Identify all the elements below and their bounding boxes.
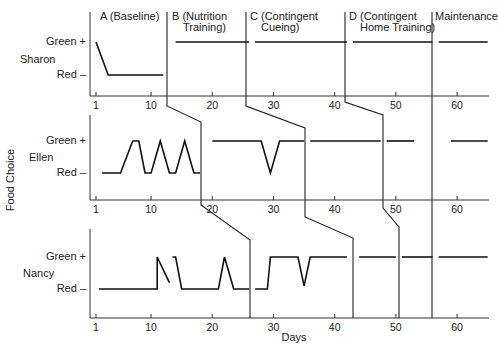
x-tick-label: 30 — [268, 321, 280, 333]
y-level-red-label: Red – — [57, 166, 87, 178]
data-line-nancy — [255, 257, 347, 289]
x-tick-label: 40 — [329, 203, 341, 215]
x-tick-label: 1 — [93, 321, 99, 333]
y-level-green-label: Green + — [46, 134, 86, 146]
y-level-red-label: Red – — [57, 68, 87, 80]
x-tick-label: 10 — [145, 99, 157, 111]
data-line-ellen — [102, 141, 200, 173]
x-tick-label: 20 — [206, 321, 218, 333]
y-level-green-label: Green + — [46, 35, 86, 47]
x-tick-label: 50 — [390, 203, 402, 215]
phase-change-line — [167, 12, 250, 318]
chart-labels: 1102030405060Green +Red –Sharon110203040… — [4, 10, 498, 343]
x-tick-label: 1 — [93, 99, 99, 111]
x-tick-label: 50 — [390, 99, 402, 111]
axes-group — [90, 12, 489, 318]
x-tick-label: 1 — [93, 203, 99, 215]
phase-header-label: Training) — [183, 21, 226, 33]
data-series — [96, 42, 488, 289]
phase-header-label: A (Baseline) — [100, 10, 159, 22]
phase-header-label: Maintenance — [435, 10, 498, 22]
x-tick-label: 20 — [206, 203, 218, 215]
x-tick-label: 40 — [329, 321, 341, 333]
x-tick-label: 20 — [206, 99, 218, 111]
y-level-green-label: Green + — [46, 250, 86, 262]
x-axis-title: Days — [281, 331, 307, 343]
x-tick-label: 60 — [451, 321, 463, 333]
x-tick-label: 10 — [145, 321, 157, 333]
data-line-ellen — [212, 141, 304, 173]
x-tick-label: 50 — [390, 321, 402, 333]
x-tick-label: 60 — [451, 99, 463, 111]
multiple-baseline-chart: 1102030405060Green +Red –Sharon110203040… — [0, 0, 498, 347]
data-line-nancy — [173, 257, 250, 289]
phase-header-label: Home Training) — [360, 21, 435, 33]
phase-header-label: Cueing) — [261, 21, 300, 33]
x-tick-label: 30 — [268, 203, 280, 215]
x-tick-label: 60 — [451, 203, 463, 215]
phase-change-line — [246, 12, 353, 318]
participant-name-label: Ellen — [29, 151, 53, 163]
phase-change-lines — [167, 12, 432, 318]
x-tick-label: 30 — [268, 99, 280, 111]
data-line-sharon — [96, 42, 163, 75]
participant-name-label: Sharon — [20, 53, 55, 65]
participant-name-label: Nancy — [23, 267, 55, 279]
y-level-red-label: Red – — [57, 282, 87, 294]
x-tick-label: 40 — [329, 99, 341, 111]
x-tick-label: 10 — [145, 203, 157, 215]
y-axis-title: Food Choice — [4, 149, 16, 211]
data-line-nancy — [99, 257, 169, 289]
